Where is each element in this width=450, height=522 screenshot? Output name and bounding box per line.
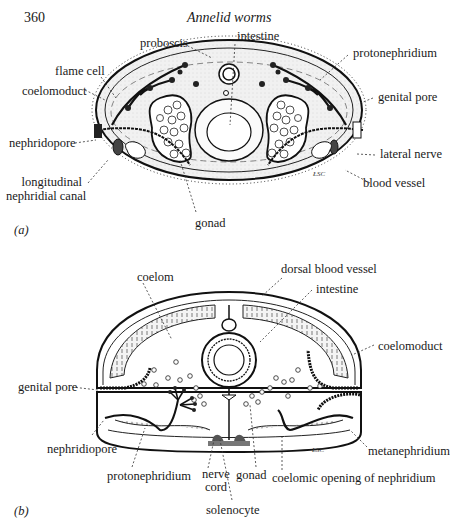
label-protonephridium-b: protonephridium <box>107 470 191 483</box>
svg-text:ŁSC: ŁSC <box>311 446 324 454</box>
label-intestine-b: intestine <box>316 283 358 296</box>
label-gonad-b: gonad <box>236 469 267 482</box>
panel-label-b: (b) <box>14 505 29 518</box>
label-solenocyte: solenocyte <box>206 504 259 517</box>
label-coelomic-opening: coelomic opening of nephridium <box>272 472 436 485</box>
label-coelomoduct-b: coelomoduct <box>378 340 443 353</box>
label-nephridiopore: nephridiopore <box>47 443 117 456</box>
label-coelom: coelom <box>137 271 174 284</box>
label-nerve-cord-line2: cord <box>199 481 233 494</box>
label-metanephridium: metanephridium <box>368 445 450 458</box>
label-dorsal-blood-vessel: dorsal blood vessel <box>281 263 377 276</box>
label-genital-pore-b: genital pore <box>18 381 77 394</box>
